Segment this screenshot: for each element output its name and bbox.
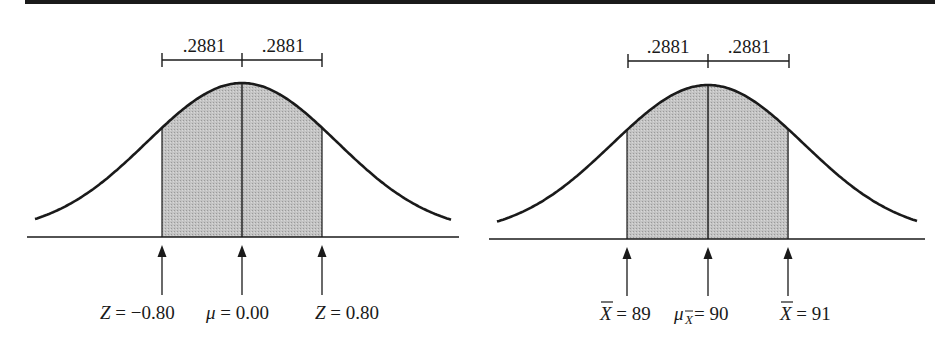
area-label-right: .2881 bbox=[262, 35, 305, 56]
svg-text:X: X bbox=[684, 312, 694, 327]
svg-text:X = 91: X = 91 bbox=[779, 303, 831, 324]
svg-text:X = 89: X = 89 bbox=[599, 303, 651, 324]
marker-label-upper-xbar: X = 91 bbox=[779, 302, 831, 324]
right-panel: .2881 .2881 X = 89 μ X = 90 X bbox=[489, 36, 925, 327]
svg-text:= 90: = 90 bbox=[694, 303, 728, 324]
arrow-up-icon bbox=[158, 245, 167, 295]
arrow-up-icon bbox=[623, 247, 632, 296]
svg-text:μ: μ bbox=[673, 303, 684, 324]
arrow-up-icon bbox=[238, 245, 247, 295]
marker-label-lower-z: Z = −0.80 bbox=[100, 302, 175, 323]
marker-label-mean: μ X = 90 bbox=[673, 303, 728, 327]
area-label-right: .2881 bbox=[728, 36, 771, 57]
area-label-left: .2881 bbox=[183, 35, 226, 56]
arrow-up-icon bbox=[318, 245, 327, 295]
area-label-left: .2881 bbox=[647, 36, 690, 57]
normal-distribution-figure: .2881 .2881 Z = −0.80 μ = 0.00 Z = 0.80 bbox=[0, 0, 942, 349]
marker-label-upper-z: Z = 0.80 bbox=[315, 302, 379, 323]
left-panel: .2881 .2881 Z = −0.80 μ = 0.00 Z = 0.80 bbox=[27, 35, 459, 323]
arrow-up-icon bbox=[704, 247, 713, 296]
marker-label-mean: μ = 0.00 bbox=[205, 302, 269, 323]
marker-label-lower-xbar: X = 89 bbox=[599, 302, 651, 324]
arrow-up-icon bbox=[784, 247, 793, 296]
